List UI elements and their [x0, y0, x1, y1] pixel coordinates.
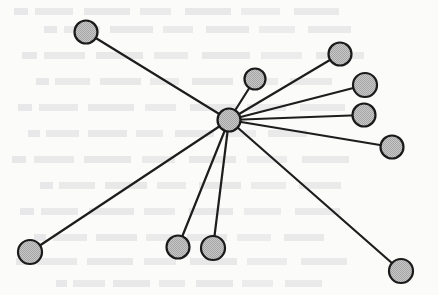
graph-node-leaf[interactable]	[167, 236, 190, 259]
graph-node-leaf[interactable]	[353, 104, 376, 127]
graph-node-leaf[interactable]	[245, 69, 266, 90]
node-circle	[353, 104, 376, 127]
graph-edge[interactable]	[86, 32, 229, 120]
graph-edge[interactable]	[229, 54, 340, 120]
network-graph-canvas	[0, 0, 438, 295]
graph-node-hub[interactable]	[218, 109, 241, 132]
graph-node-leaf[interactable]	[381, 136, 404, 159]
graph-node-leaf[interactable]	[353, 73, 377, 97]
node-circle	[167, 236, 190, 259]
node-circle	[381, 136, 404, 159]
graph-node-leaf[interactable]	[201, 236, 225, 260]
graph-node-leaf[interactable]	[18, 240, 42, 264]
node-circle	[353, 73, 377, 97]
node-circle	[245, 69, 266, 90]
node-circle	[218, 109, 241, 132]
node-circle	[329, 43, 352, 66]
node-circle	[201, 236, 225, 260]
star-graph-figure	[0, 0, 438, 295]
graph-node-leaf[interactable]	[389, 259, 413, 283]
graph-node-leaf[interactable]	[329, 43, 352, 66]
node-circle	[18, 240, 42, 264]
graph-edge[interactable]	[30, 120, 229, 252]
graph-edge[interactable]	[229, 120, 401, 271]
node-circle	[389, 259, 413, 283]
node-circle	[75, 21, 98, 44]
graph-node-leaf[interactable]	[75, 21, 98, 44]
